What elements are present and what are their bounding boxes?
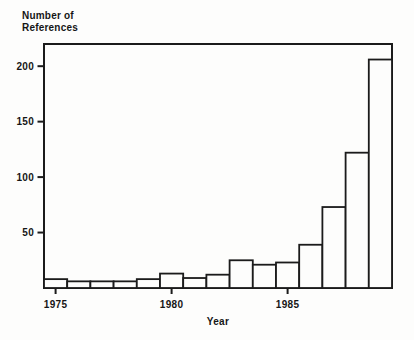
x-axis-label: Year: [44, 316, 392, 327]
y-tick-label-200: 200: [16, 61, 34, 72]
bar-1979: [137, 279, 160, 288]
y-tick-label-50: 50: [22, 227, 34, 238]
bar-1989: [369, 60, 392, 288]
bar-1987: [322, 207, 345, 288]
bar-1982: [206, 275, 229, 288]
bar-1985: [276, 262, 299, 288]
bar-1977: [90, 281, 113, 288]
y-tick-label-100: 100: [16, 172, 34, 183]
bar-chart-canvas: 50100150200197519801985: [0, 0, 414, 340]
x-tick-label-1980: 1980: [160, 299, 184, 310]
x-tick-label-1985: 1985: [276, 299, 300, 310]
x-tick-label-1975: 1975: [44, 299, 68, 310]
y-tick-label-150: 150: [16, 116, 34, 127]
bar-1976: [67, 281, 90, 288]
bar-1975: [44, 279, 67, 288]
bar-1981: [183, 278, 206, 288]
bar-1986: [299, 245, 322, 288]
bar-1983: [230, 260, 253, 288]
bar-1984: [253, 265, 276, 288]
bar-1978: [114, 281, 137, 288]
chart-page: Number of References 5010015020019751980…: [0, 0, 414, 340]
bar-1988: [346, 153, 369, 288]
bar-1980: [160, 274, 183, 288]
